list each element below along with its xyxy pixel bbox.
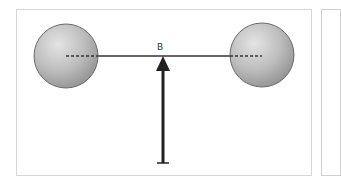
point-label-b: B [157,42,163,52]
right-ball [230,23,294,87]
support-arrow-icon [156,56,170,163]
left-ball [34,24,98,88]
